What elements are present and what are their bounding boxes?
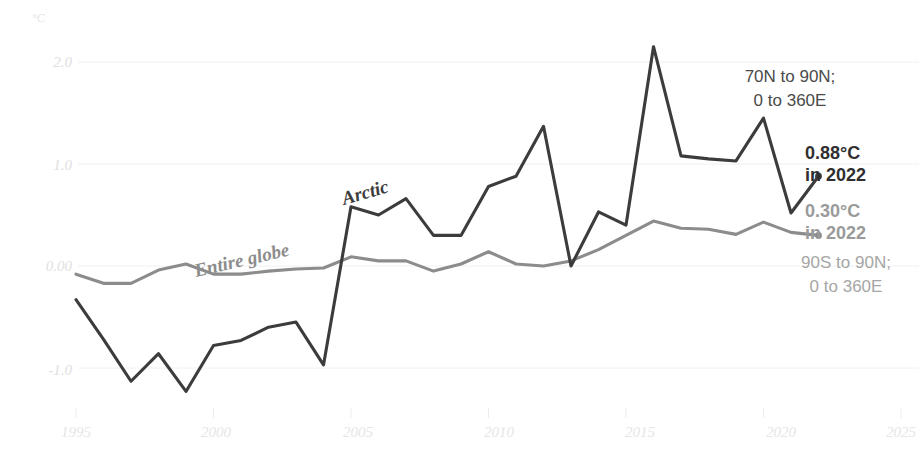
y-tick-label--1.0: -1.0	[48, 362, 72, 378]
x-tick-label-2025: 2025	[886, 424, 917, 440]
y-axis-unit-label: °C	[32, 11, 46, 25]
x-tick-label-2020: 2020	[766, 424, 797, 440]
arctic-region-note-line-1: 70N to 90N;	[745, 67, 836, 86]
y-tick-label-1.0: 1.0	[53, 157, 72, 173]
y-tick-label-2.0: 2.0	[53, 54, 72, 70]
series-line-arctic	[76, 47, 819, 392]
x-tick-label-2010: 2010	[484, 424, 515, 440]
x-tick-label-2000: 2000	[201, 424, 232, 440]
arctic-end-year-label: in 2022	[805, 165, 866, 185]
x-tick-label-1995: 1995	[61, 424, 92, 440]
globe-end-annotation: 0.30°C in 2022	[805, 201, 866, 243]
series-line-entire-globe	[76, 221, 819, 283]
arctic-region-note-line-2: 0 to 360E	[754, 91, 827, 110]
x-tickmarks	[76, 408, 901, 418]
x-axis-tick-labels: 1995 2000 2005 2010 2015 2020 2025	[61, 424, 917, 440]
globe-region-note: 90S to 90N; 0 to 360E	[801, 253, 891, 296]
globe-region-note-line-2: 0 to 360E	[810, 277, 883, 296]
globe-end-value-label: 0.30°C	[805, 201, 860, 221]
arctic-region-note: 70N to 90N; 0 to 360E	[745, 67, 836, 110]
globe-region-note-line-1: 90S to 90N;	[801, 253, 891, 272]
temperature-anomaly-chart: °C 2.0 1.0 0.00 -1.0 1995 2000 2005 2010…	[0, 0, 919, 466]
x-tick-label-2015: 2015	[625, 424, 656, 440]
chart-svg: °C 2.0 1.0 0.00 -1.0 1995 2000 2005 2010…	[0, 0, 919, 466]
y-axis-tick-labels: 2.0 1.0 0.00 -1.0	[46, 54, 73, 378]
x-tick-label-2005: 2005	[343, 424, 374, 440]
y-tick-label-0.00: 0.00	[46, 258, 73, 274]
arctic-end-value-label: 0.88°C	[805, 143, 860, 163]
series-label-arctic: Arctic	[338, 175, 391, 209]
globe-end-year-label: in 2022	[805, 223, 866, 243]
